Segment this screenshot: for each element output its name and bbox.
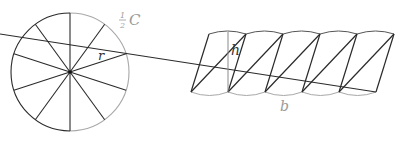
sector-edge	[302, 34, 357, 92]
height-label: h	[231, 42, 240, 58]
base-label: b	[280, 98, 289, 114]
circle-figure	[11, 13, 129, 131]
half-circumference-label: 1 2 C	[119, 11, 141, 30]
top-arc	[357, 31, 394, 34]
circle-radius-line	[14, 54, 70, 72]
bottom-arc	[339, 92, 376, 96]
circumference-symbol: C	[129, 11, 141, 29]
sector-edge	[339, 34, 394, 92]
bottom-arc	[228, 92, 265, 96]
circle-radius-line	[70, 72, 105, 120]
bottom-arc	[191, 92, 228, 96]
top-arc	[246, 31, 283, 34]
circle-radius-line	[35, 24, 70, 72]
top-arc	[320, 31, 357, 34]
parallelogram-strip	[0, 31, 394, 96]
bottom-arc	[302, 92, 339, 96]
diagram-canvas: r 1 2 C h b	[0, 0, 408, 144]
circle-radius-line	[35, 72, 70, 120]
fraction-numerator: 1	[120, 11, 125, 20]
fraction-denominator: 2	[119, 21, 125, 30]
circle-radius-line	[14, 72, 70, 90]
bottom-arc	[265, 92, 302, 96]
circle-radius-line	[70, 72, 126, 90]
sector-edge	[0, 34, 376, 92]
sector-edge	[265, 34, 320, 92]
top-arc	[283, 31, 320, 34]
circle-center-dot	[69, 71, 72, 74]
